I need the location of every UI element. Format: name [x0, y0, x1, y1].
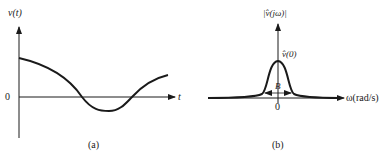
panel-b-caption: (b) — [272, 140, 284, 150]
panel-b-spectrum-curve — [208, 61, 340, 98]
peak-value-label: v̂(0) — [282, 50, 297, 59]
panel-a-caption: (a) — [88, 140, 99, 150]
bandwidth-label: B — [275, 82, 281, 91]
panel-b-y-axis-label: |v̂(jω)| — [263, 9, 287, 18]
panel-b-plot — [208, 24, 344, 103]
panel-a-signal-curve — [19, 58, 168, 111]
panel-a-plot — [19, 27, 175, 138]
panel-b-x-axis-label: ω(rad/s) — [346, 93, 379, 103]
figure-canvas — [0, 0, 392, 163]
panel-a-x-axis-label: t — [178, 92, 181, 102]
panel-a-zero-label: 0 — [5, 92, 10, 102]
panel-a-y-axis-label: v(t) — [8, 8, 22, 18]
panel-b-zero-label: 0 — [275, 102, 280, 112]
